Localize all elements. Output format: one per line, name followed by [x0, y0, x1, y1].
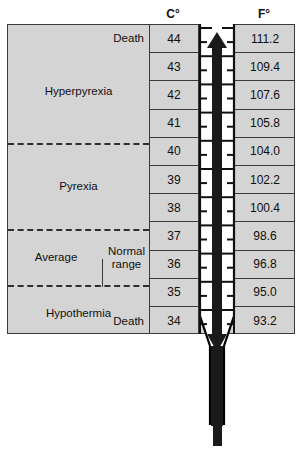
temperature-scale-panel: Death Hyperpyrexia Pyrexia Average Norma… — [7, 24, 295, 334]
fahrenheit-cell: 98.6 — [235, 222, 295, 250]
fahrenheit-cell: 93.2 — [235, 307, 295, 335]
zone-divider-hyperpyrexia-pyrexia — [8, 143, 149, 145]
fahrenheit-cell: 107.6 — [235, 81, 295, 109]
normal-range-line1: Normal — [108, 245, 145, 257]
celsius-cell: 41 — [150, 110, 198, 138]
fahrenheit-cell: 104.0 — [235, 138, 295, 166]
celsius-cell: 44 — [150, 25, 198, 53]
zone-label-hyperpyrexia: Hyperpyrexia — [8, 85, 149, 97]
zone-label-average: Average — [8, 251, 104, 263]
celsius-cell: 36 — [150, 251, 198, 279]
normal-range-line2: range — [112, 258, 141, 270]
celsius-unit-header: C° — [148, 7, 198, 21]
zone-label-death-high: Death — [8, 32, 144, 44]
celsius-cell: 34 — [150, 307, 198, 335]
zone-label-pyrexia: Pyrexia — [8, 180, 149, 192]
fahrenheit-cell: 111.2 — [235, 25, 295, 53]
thermometer-bulb — [211, 346, 223, 446]
fahrenheit-cell: 96.8 — [235, 251, 295, 279]
celsius-cell: 42 — [150, 81, 198, 109]
fahrenheit-cell: 105.8 — [235, 110, 295, 138]
fahrenheit-column: 111.2 109.4 107.6 105.8 104.0 102.2 100.… — [234, 25, 295, 333]
celsius-column: 44 43 42 41 40 39 38 37 36 35 34 — [149, 25, 199, 333]
thermometer-diagram: C° F° Death Hyperpyrexia Pyrexia Average… — [0, 0, 303, 468]
fahrenheit-unit-header: F° — [233, 7, 295, 21]
celsius-cell: 40 — [150, 138, 198, 166]
celsius-cell: 37 — [150, 222, 198, 250]
fahrenheit-cell: 100.4 — [235, 194, 295, 222]
fahrenheit-cell: 102.2 — [235, 166, 295, 194]
zone-divider-pyrexia-average — [8, 229, 149, 231]
zone-divider-average-hypothermia — [8, 285, 149, 287]
fahrenheit-cell: 109.4 — [235, 53, 295, 81]
zone-label-death-low: Death — [8, 315, 144, 327]
celsius-cell: 43 — [150, 53, 198, 81]
celsius-cell: 35 — [150, 279, 198, 307]
zone-label-normal-range: Normalrange — [104, 245, 149, 270]
fahrenheit-cell: 95.0 — [235, 279, 295, 307]
normal-range-separator — [102, 259, 103, 287]
celsius-cell: 38 — [150, 194, 198, 222]
celsius-cell: 39 — [150, 166, 198, 194]
